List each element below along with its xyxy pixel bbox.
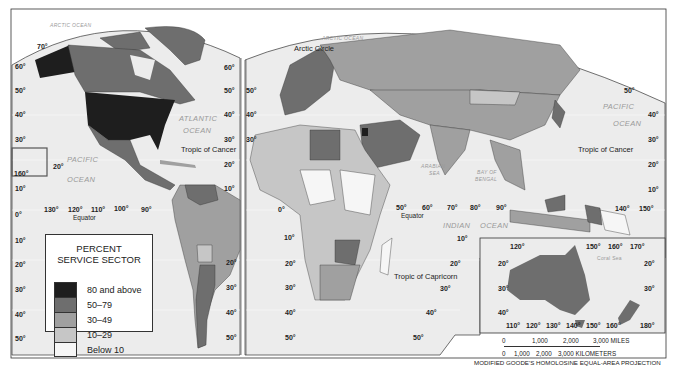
lon-label: 90°: [496, 204, 507, 211]
legend-title-line1: PERCENT: [46, 243, 152, 254]
lon-label: 100°: [114, 205, 128, 212]
lat-label: 10°: [224, 185, 235, 192]
tropic-of-cancer-left-label: Tropic of Cancer: [181, 146, 236, 154]
lon-label: 180°: [640, 322, 654, 329]
lon-label: 110°: [91, 206, 105, 213]
legend-label: 30–49: [87, 315, 112, 325]
pacific-ocean-left-label-2: OCEAN: [67, 176, 95, 184]
arctic-ocean-right-label: ARCTIC OCEAN: [322, 36, 363, 41]
legend-label: 10–29: [87, 330, 112, 340]
lat-label: 50°: [246, 87, 257, 94]
lon-label: 90°: [141, 206, 152, 213]
equator-left-label: Equator: [73, 215, 96, 222]
lat-label: 40°: [15, 311, 26, 318]
legend-label: 50–79: [87, 300, 112, 310]
tropic-of-cancer-right-label: Tropic of Cancer: [578, 146, 633, 154]
legend-item: 10–29: [54, 327, 142, 342]
lon-label: 120°: [526, 322, 540, 329]
atlantic-ocean-label-2: OCEAN: [183, 127, 211, 135]
lat-label: 20°: [450, 260, 461, 267]
lat-label: 10°: [15, 237, 26, 244]
scale-line: [504, 346, 600, 347]
lon-label: 80°: [470, 204, 481, 211]
legend-item: 50–79: [54, 297, 142, 312]
arctic-circle-label: Arctic Circle: [294, 45, 334, 53]
lat-label: 40°: [648, 111, 659, 118]
lat-label: 50°: [285, 334, 296, 341]
lon-label: 140°: [566, 322, 580, 329]
scale-km-tick: 3,000 KILOMETERS: [558, 350, 616, 357]
lat-label: 40°: [226, 309, 237, 316]
lon-label: 140°: [615, 205, 629, 212]
pacific-ocean-left-label-1: PACIFIC: [67, 156, 98, 164]
lon-label: 120°: [510, 243, 524, 250]
legend-title-line2: SERVICE SECTOR: [46, 254, 152, 265]
lat-label: 50°: [226, 334, 237, 341]
legend-swatch: [54, 312, 77, 327]
lat-label: 50°: [15, 335, 26, 342]
legend: PERCENT SERVICE SECTOR 80 and above 50–7…: [45, 234, 153, 332]
arctic-ocean-left-label: ARCTIC OCEAN: [50, 23, 91, 28]
lat-label: 30°: [440, 285, 451, 292]
lon-label: 150°: [639, 205, 653, 212]
indian-ocean-label-2: OCEAN: [480, 222, 508, 230]
projection-label: MODIFIED GOODE'S HOMOLOSINE EQUAL-AREA P…: [474, 359, 661, 366]
scale-km-tick: 2,000: [536, 350, 552, 357]
legend-swatch: [54, 297, 77, 312]
lon-label: 130°: [44, 206, 58, 213]
lon-label: 70°: [447, 204, 458, 211]
lon-label: 160°: [608, 243, 622, 250]
legend-label: 80 and above: [87, 285, 142, 295]
lon-label: 0°: [278, 206, 285, 213]
lat-label: 20°: [53, 163, 64, 170]
lat-label: 40°: [15, 111, 26, 118]
lat-label: 30°: [285, 284, 296, 291]
lon-label: 120°: [68, 206, 82, 213]
arabian-sea-label-2: SEA: [429, 171, 440, 176]
lat-label: 30°: [15, 286, 26, 293]
scale-miles-tick: 3,000 MILES: [593, 337, 629, 344]
lon-label: 170°: [630, 243, 644, 250]
lat-label: 70°: [37, 43, 48, 50]
lon-label: 160°: [606, 322, 620, 329]
lat-label: 20°: [644, 260, 655, 267]
lon-label: 150°: [586, 243, 600, 250]
lat-label: 30°: [644, 285, 655, 292]
lat-label: 40°: [285, 309, 296, 316]
lat-label: 10°: [648, 186, 659, 193]
lat-label: 30°: [15, 136, 26, 143]
lat-label: 50°: [224, 87, 235, 94]
lat-label: 30°: [648, 136, 659, 143]
scale-bar: 0 1,000 2,000 3,000 MILES 0 1,000 2,000 …: [500, 337, 675, 359]
lat-label: 60°: [15, 63, 26, 70]
lat-label: 40°: [426, 309, 437, 316]
lat-label: 30°: [498, 285, 509, 292]
lat-label: 30°: [224, 136, 235, 143]
coral-sea-label: Coral Sea: [597, 256, 622, 261]
lat-label: 40°: [246, 111, 257, 118]
equator-right-label: Equator: [401, 213, 424, 220]
lat-label: 10°: [284, 234, 295, 241]
lat-label: 30°: [226, 284, 237, 291]
lat-label: 30°: [246, 136, 257, 143]
pacific-ocean-right-label-1: PACIFIC: [603, 103, 634, 111]
lat-label: 40°: [224, 111, 235, 118]
bay-of-bengal-label-2: BENGAL: [475, 177, 497, 182]
lat-label: 10°: [457, 235, 468, 242]
tropic-of-capricorn-label: Tropic of Capricorn: [394, 273, 458, 281]
legend-label: Below 10: [87, 345, 124, 355]
lat-label: 50°: [413, 334, 424, 341]
legend-swatch: [54, 342, 77, 357]
lat-label: 20°: [285, 260, 296, 267]
legend-swatch: [54, 282, 77, 297]
legend-swatch: [54, 327, 77, 342]
lat-label: 20°: [648, 161, 659, 168]
scale-miles-tick: 1,000: [532, 337, 548, 344]
bay-of-bengal-label-1: BAY OF: [477, 170, 497, 175]
lon-label: 50°: [396, 204, 407, 211]
scale-miles-tick: 0: [502, 337, 506, 344]
scale-km-tick: 1,000: [514, 350, 530, 357]
lat-label: 50°: [15, 87, 26, 94]
indian-ocean-label-1: INDIAN: [443, 222, 470, 230]
lat-label: 20°: [498, 260, 509, 267]
